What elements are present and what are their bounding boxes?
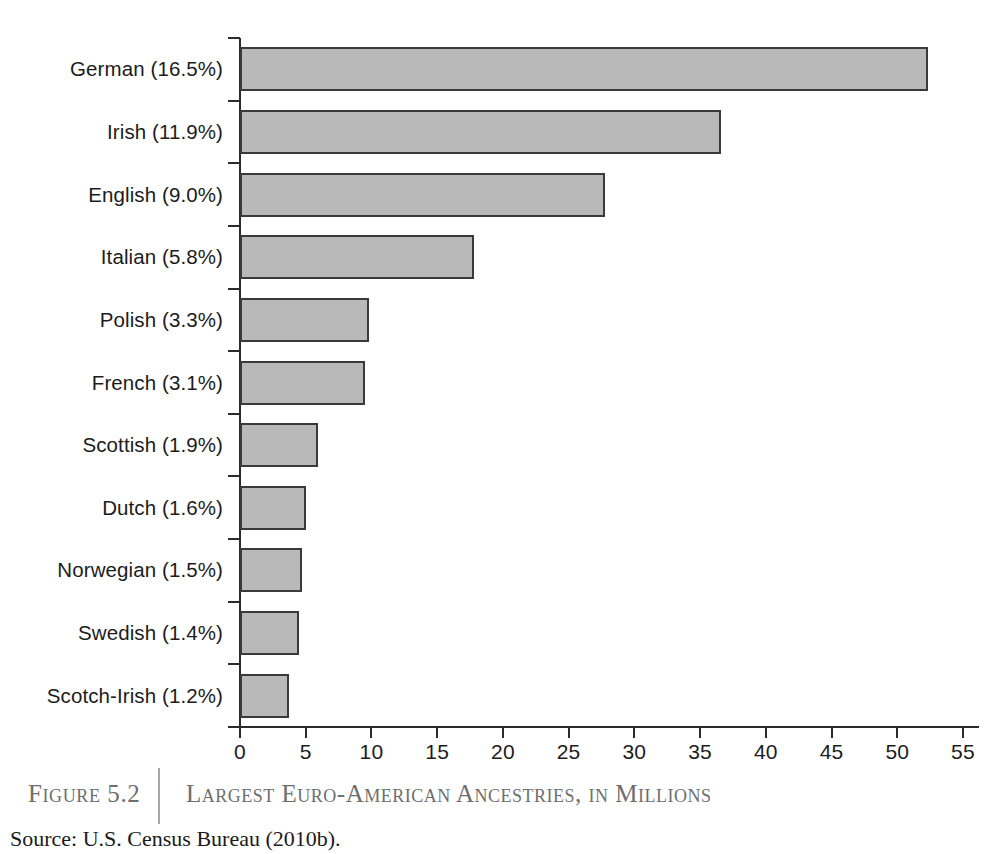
x-axis-tick (502, 727, 504, 738)
bar (240, 611, 299, 655)
x-axis-tick (896, 727, 898, 738)
x-axis-tick-label: 5 (300, 740, 312, 764)
category-label: French (3.1%) (92, 371, 223, 395)
x-axis-tick (239, 727, 241, 738)
bar (240, 235, 474, 279)
y-axis-tick (228, 100, 240, 102)
source-note: Source: U.S. Census Bureau (2010b). (10, 826, 341, 852)
x-axis-tick (568, 727, 570, 738)
bar (240, 423, 318, 467)
bar (240, 110, 721, 154)
bar-chart-plot-area: German (16.5%)Irish (11.9%)English (9.0%… (0, 0, 1006, 760)
y-axis-tick (228, 288, 240, 290)
x-axis-tick (699, 727, 701, 738)
y-axis-tick (228, 162, 240, 164)
bar (240, 486, 306, 530)
caption-divider (158, 768, 160, 824)
x-axis-tick-label: 55 (951, 740, 975, 764)
figure-root: German (16.5%)Irish (11.9%)English (9.0%… (0, 0, 1006, 854)
x-axis-tick-label: 15 (425, 740, 449, 764)
category-label: Italian (5.8%) (101, 245, 223, 269)
x-axis-tick-label: 0 (234, 740, 246, 764)
x-axis-tick (962, 727, 964, 738)
category-label: English (9.0%) (88, 183, 223, 207)
bar (240, 47, 928, 91)
x-axis-tick-label: 40 (754, 740, 778, 764)
category-label: Irish (11.9%) (107, 120, 223, 144)
bar (240, 548, 302, 592)
x-axis-tick (831, 727, 833, 738)
category-label: Polish (3.3%) (100, 308, 223, 332)
x-axis-tick (305, 727, 307, 738)
x-axis-tick-label: 20 (491, 740, 515, 764)
x-axis-tick-label: 25 (557, 740, 581, 764)
bar (240, 173, 605, 217)
x-axis-tick-label: 30 (622, 740, 646, 764)
category-label: Swedish (1.4%) (78, 621, 223, 645)
x-axis-tick (765, 727, 767, 738)
category-label: Scotch-Irish (1.2%) (47, 684, 223, 708)
y-axis-tick (228, 475, 240, 477)
x-axis-tick (370, 727, 372, 738)
bar (240, 361, 365, 405)
figure-caption: Figure 5.2 Largest Euro-American Ancestr… (0, 768, 1006, 824)
x-axis-tick-label: 50 (885, 740, 909, 764)
y-axis-tick (228, 601, 240, 603)
y-axis-tick (228, 538, 240, 540)
x-axis-tick-label: 10 (360, 740, 384, 764)
x-axis-tick-label: 35 (688, 740, 712, 764)
x-axis-tick (633, 727, 635, 738)
category-label: Scottish (1.9%) (83, 433, 224, 457)
y-axis-tick (228, 663, 240, 665)
figure-caption-title: Largest Euro-American Ancestries, in Mil… (186, 780, 712, 808)
category-label: Norwegian (1.5%) (57, 558, 223, 582)
x-axis-tick-label: 45 (820, 740, 844, 764)
category-label: German (16.5%) (70, 57, 223, 81)
y-axis-tick (228, 37, 240, 39)
category-label: Dutch (1.6%) (102, 496, 223, 520)
bar (240, 674, 289, 718)
y-axis-tick (228, 350, 240, 352)
x-axis-line (239, 726, 979, 728)
x-axis-tick (436, 727, 438, 738)
y-axis-tick (228, 225, 240, 227)
y-axis-tick (228, 413, 240, 415)
figure-number-label: Figure 5.2 (28, 780, 140, 808)
bar (240, 298, 369, 342)
